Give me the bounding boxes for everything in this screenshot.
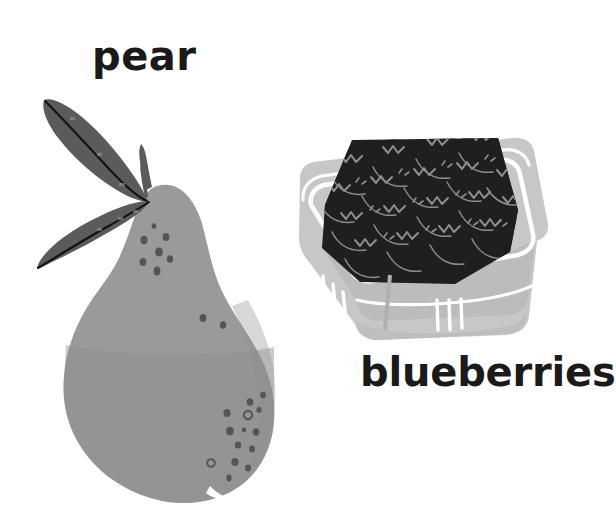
pear-label: pear [92,36,196,76]
pear-shading [64,345,274,503]
pear-group [37,99,275,503]
blueberry-basket-group [299,127,548,340]
blueberries-label: blueberries [360,352,616,392]
